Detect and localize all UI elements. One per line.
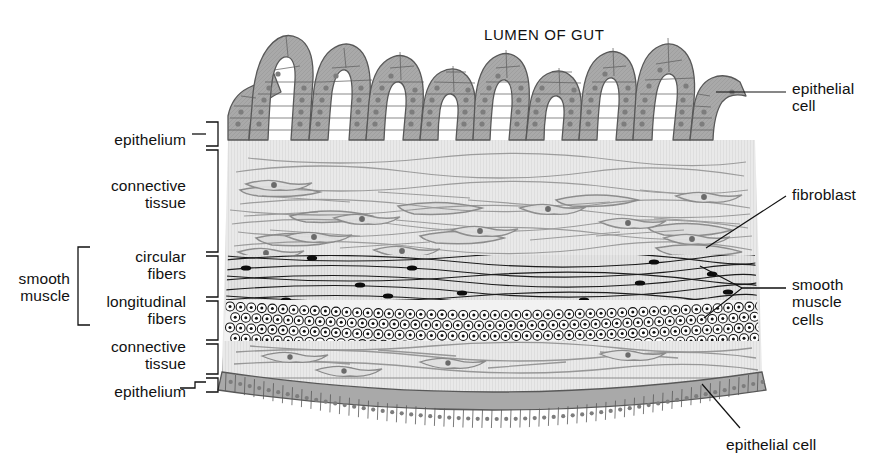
bottom-epithelial-nucleus [390, 410, 394, 414]
smooth-muscle-nucleus [435, 324, 438, 327]
bottom-epithelial-nucleus [400, 411, 404, 415]
bottom-epithelial-nucleus [305, 396, 309, 400]
label-epithelium-top: epithelium [114, 131, 186, 148]
smooth-muscle-nucleus [430, 313, 433, 316]
bottom-epithelial-nucleus [523, 416, 527, 420]
smooth-muscle-nucleus [753, 336, 756, 339]
bottom-epithelial-nucleus [637, 405, 641, 409]
label-smooth-muscle-cells: smooth muscle cells [792, 276, 843, 328]
smooth-muscle-nucleus [266, 317, 269, 320]
circular-fibers-layer [222, 252, 760, 306]
bottom-epithelial-nucleus [552, 415, 556, 419]
smooth-muscle-nucleus [361, 322, 364, 325]
bottom-epithelial-nucleus [561, 414, 565, 418]
smooth-muscle-nucleus [297, 319, 300, 322]
smooth-muscle-nucleus [335, 331, 338, 334]
smooth-muscle-nucleus [250, 306, 253, 309]
smooth-muscle-nucleus [425, 323, 428, 326]
bottom-epithelial-nucleus [704, 392, 708, 396]
smooth-muscle-nucleus [748, 305, 751, 308]
smooth-muscle-nucleus [610, 311, 613, 314]
smooth-muscle-nucleus [647, 321, 650, 324]
bottom-epithelial-nucleus [457, 416, 461, 420]
smooth-muscle-nucleus [409, 313, 412, 316]
smooth-muscle-nucleus [488, 324, 491, 327]
smooth-muscle-nucleus [706, 328, 709, 331]
smooth-muscle-nucleus [541, 324, 544, 327]
smooth-muscle-nucleus [451, 313, 454, 316]
smooth-muscle-nucleus [335, 310, 338, 313]
smooth-muscle-nucleus [663, 309, 666, 312]
smooth-muscle-nucleus [403, 323, 406, 326]
smooth-muscle-nucleus [345, 311, 348, 314]
smooth-muscle-nucleus [456, 324, 459, 327]
bottom-epithelial-cell-border [482, 410, 483, 428]
bottom-epithelial-nucleus [276, 390, 280, 394]
smooth-muscle-nucleus [557, 313, 560, 316]
smooth-muscle-nucleus [562, 323, 565, 326]
smooth-muscle-nucleus [631, 311, 634, 314]
smooth-muscle-nucleus [711, 318, 714, 321]
smooth-muscle-nucleus [753, 315, 756, 318]
smooth-muscle-nucleus [244, 316, 247, 319]
bottom-epithelial-nucleus [267, 388, 271, 392]
smooth-muscle-nucleus [732, 316, 735, 319]
smooth-muscle-nucleus [547, 313, 550, 316]
bottom-epithelial-nucleus [514, 417, 518, 421]
smooth-muscle-nucleus [605, 322, 608, 325]
smooth-muscle-nucleus [536, 334, 539, 337]
smooth-muscle-nucleus [276, 318, 279, 321]
label-epithelium-bottom: epithelium [114, 383, 186, 400]
smooth-muscle-nucleus [727, 306, 730, 309]
bottom-epithelial-nucleus [751, 382, 755, 386]
smooth-muscle-nucleus [372, 322, 375, 325]
smooth-muscle-nucleus [287, 318, 290, 321]
smooth-muscle-nucleus [340, 321, 343, 324]
smooth-muscle-nucleus [520, 324, 523, 327]
smooth-muscle-nucleus [737, 327, 740, 330]
smooth-muscle-nucleus [350, 321, 353, 324]
bottom-epithelial-nucleus [542, 416, 546, 420]
bottom-epithelial-cell-border [510, 410, 511, 428]
bottom-epithelial-nucleus [742, 384, 746, 388]
bottom-epithelial-nucleus [438, 415, 442, 419]
smooth-muscle-nucleus [515, 313, 518, 316]
bottom-epithelial-cell-border [558, 407, 559, 425]
smooth-muscle-nucleus [239, 306, 242, 309]
smooth-muscle-nucleus [557, 334, 560, 337]
smooth-muscle-nucleus [472, 335, 475, 338]
smooth-muscle-nucleus [568, 334, 571, 337]
bottom-epithelial-nucleus [666, 400, 670, 404]
bottom-epithelial-nucleus [599, 410, 603, 414]
bottom-epithelial-cell-border [529, 409, 530, 427]
smooth-muscle-nucleus [324, 310, 327, 313]
bottom-epithelial-nucleus [257, 386, 261, 390]
smooth-muscle-nucleus [589, 333, 592, 336]
smooth-muscle-nucleus [255, 317, 258, 320]
smooth-muscle-nucleus [282, 308, 285, 311]
smooth-muscle-nucleus [414, 323, 417, 326]
smooth-muscle-nucleus [727, 327, 730, 330]
bottom-epithelial-nucleus [580, 412, 584, 416]
smooth-muscle-nucleus [626, 321, 629, 324]
bottom-epithelial-cell-border [453, 409, 454, 427]
smooth-muscle-nucleus [430, 334, 433, 337]
smooth-muscle-nucleus [345, 332, 348, 335]
bottom-epithelial-nucleus [609, 409, 613, 413]
smooth-muscle-nucleus [578, 333, 581, 336]
smooth-muscle-nucleus [690, 319, 693, 322]
bracket-epithelium-top [206, 122, 218, 146]
smooth-muscle-nucleus [250, 327, 253, 330]
smooth-muscle-nucleus [483, 335, 486, 338]
bottom-epithelial-nucleus [352, 405, 356, 409]
bottom-epithelial-cell-border [548, 408, 549, 426]
bottom-epithelial-cell-border [472, 410, 473, 428]
smooth-muscle-nucleus [388, 312, 391, 315]
smooth-muscle-nucleus [419, 334, 422, 337]
smooth-muscle-nucleus [366, 311, 369, 314]
smooth-muscle-nucleus [716, 328, 719, 331]
smooth-muscle-nucleus [234, 316, 237, 319]
smooth-muscle-nucleus [292, 308, 295, 311]
bottom-epithelial-nucleus [618, 408, 622, 412]
label-epithelial-cell-top: epithelial cell [792, 80, 854, 115]
